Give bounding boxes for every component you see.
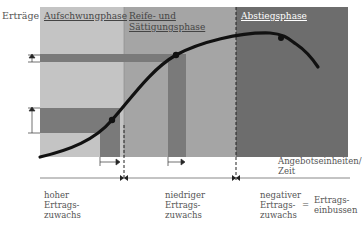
equals-sign: = <box>302 200 309 210</box>
y-axis-label: Erträge <box>2 11 39 21</box>
time-delta-arrow-2 <box>168 157 185 166</box>
annotation-yield-loss: Ertrags- einbussen <box>314 195 357 215</box>
lower-time-band <box>100 120 120 157</box>
annotation-negative-growth: negativer Ertrags- zuwachs <box>260 190 301 220</box>
phase-3-label: Abstiegsphase <box>241 11 307 21</box>
phase-2-label-line1: Reife- und <box>129 11 176 21</box>
upper-yield-band <box>40 54 176 62</box>
x-axis-label-line1: Angebotseinheiten/ <box>278 156 362 166</box>
time-delta-arrow-1 <box>100 157 120 166</box>
yield-delta-arrow-upper <box>28 54 40 62</box>
yield-delta-arrow-lower <box>28 107 40 133</box>
curve-point-2 <box>173 52 179 58</box>
upper-time-band <box>168 54 186 157</box>
divider-marker-2 <box>232 175 240 181</box>
phase-1-label: Aufschwungphase <box>44 11 127 21</box>
curve-point-1 <box>109 117 115 123</box>
curve-point-3 <box>278 35 284 41</box>
phase-2-label-line2: Sättigungsphase <box>129 22 205 32</box>
phase-3-area <box>236 7 348 157</box>
annotation-high-growth: hoher Ertrags- zuwachs <box>44 190 81 220</box>
x-axis-label-line2: Zeit <box>278 166 295 176</box>
annotation-low-growth: niedriger Ertrags- zuwachs <box>165 190 205 220</box>
